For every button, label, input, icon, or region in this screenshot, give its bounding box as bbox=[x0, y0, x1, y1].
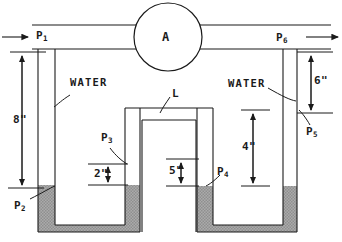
leader-water-right bbox=[268, 88, 296, 101]
p6-base: P bbox=[276, 31, 283, 44]
p6-sub: 6 bbox=[283, 36, 288, 45]
p2-sub: 2 bbox=[21, 204, 26, 213]
device-label-a: A bbox=[162, 31, 170, 43]
dimension-label-8in: 8" bbox=[13, 114, 27, 125]
leader-p5 bbox=[299, 110, 310, 125]
leader-lines bbox=[30, 88, 310, 199]
figure-canvas: A L WATER WATER P1 P2 P3 P4 P5 P6 8" 2" … bbox=[0, 0, 342, 242]
p5-base: P bbox=[306, 125, 313, 138]
tube-label-l: L bbox=[172, 88, 179, 99]
dimension-label-4in: 4" bbox=[242, 141, 256, 152]
water-label-left: WATER bbox=[70, 77, 108, 88]
pressure-label-p5: P5 bbox=[306, 126, 318, 139]
leader-l bbox=[160, 97, 170, 113]
p4-sub: 4 bbox=[224, 170, 229, 179]
dimension-label-6in: 6" bbox=[314, 75, 328, 86]
water-label-right: WATER bbox=[228, 78, 266, 89]
dimension-label-2in: 2" bbox=[94, 168, 108, 179]
pressure-label-p3: P3 bbox=[101, 132, 113, 145]
pressure-label-p2: P2 bbox=[14, 200, 26, 213]
manometer-diagram bbox=[0, 0, 342, 242]
leader-water-left bbox=[54, 95, 70, 107]
p5-sub: 5 bbox=[313, 130, 318, 139]
dimension-label-5in: 5" bbox=[169, 165, 183, 176]
pressure-label-p1: P1 bbox=[36, 30, 48, 43]
p3-base: P bbox=[101, 131, 108, 144]
p1-sub: 1 bbox=[43, 34, 48, 43]
p4-base: P bbox=[217, 165, 224, 178]
p3-sub: 3 bbox=[108, 136, 113, 145]
pressure-label-p6: P6 bbox=[276, 32, 288, 45]
p1-base: P bbox=[36, 29, 43, 42]
p2-base: P bbox=[14, 199, 21, 212]
pressure-label-p4: P4 bbox=[217, 166, 229, 179]
